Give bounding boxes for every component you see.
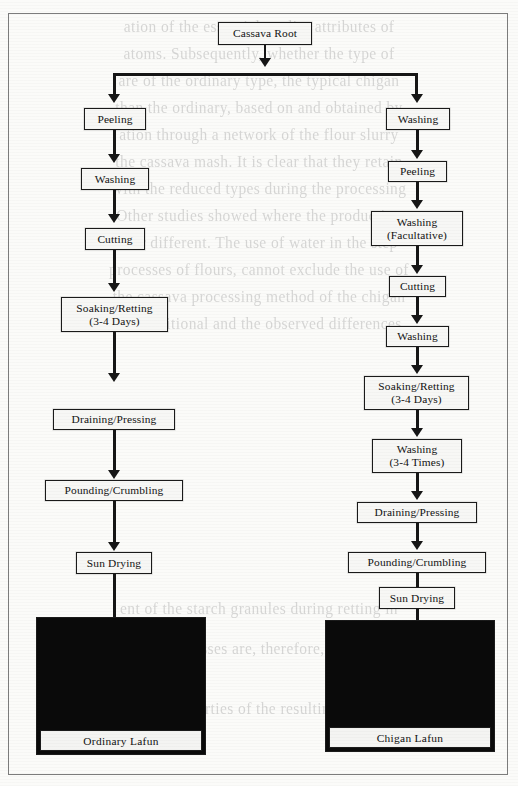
connector-left-3	[113, 250, 116, 286]
connector-left-4	[113, 332, 116, 376]
photo-chigan-lafun: Chigan Lafun	[325, 620, 495, 752]
arrowhead-left-5	[108, 470, 120, 479]
node-right-draining-pressing[interactable]: Draining/Pressing	[357, 502, 477, 523]
arrowhead-left-1	[108, 154, 120, 163]
node-cassava-root[interactable]: Cassava Root	[218, 22, 312, 45]
photo-caption: Ordinary Lafun	[40, 730, 202, 751]
connector-left-6	[113, 501, 116, 545]
node-label: Pounding/Crumbling	[65, 484, 164, 497]
node-sublabel: (Facultative)	[387, 229, 447, 242]
node-label: Washing	[397, 216, 438, 229]
arrowhead-root-stem	[259, 58, 271, 67]
node-label: Sun Drying	[87, 557, 141, 570]
node-label: Cutting	[97, 233, 132, 246]
node-label: Cutting	[400, 280, 435, 293]
node-left-peeling[interactable]: Peeling	[84, 108, 146, 130]
node-label: Pounding/Crumbling	[368, 556, 467, 569]
node-left-soaking-retting[interactable]: Soaking/Retting (3-4 Days)	[61, 297, 168, 332]
node-label: Draining/Pressing	[375, 506, 460, 519]
arrowhead-split-right	[411, 94, 423, 103]
node-label: Washing	[397, 330, 438, 343]
node-right-cutting[interactable]: Cutting	[389, 276, 446, 297]
node-left-pounding-crumbling[interactable]: Pounding/Crumbling	[45, 480, 183, 501]
node-label: Soaking/Retting	[76, 302, 152, 315]
node-sublabel: (3-4 Times)	[389, 456, 444, 469]
arrowhead-split-left	[108, 94, 120, 103]
node-right-washing-facultative[interactable]: Washing (Facultative)	[371, 211, 463, 246]
node-right-washing-1[interactable]: Washing	[386, 108, 450, 130]
arrowhead-right-2	[411, 200, 423, 209]
arrowhead-left-4	[108, 373, 120, 382]
node-label: Draining/Pressing	[72, 413, 157, 426]
node-label: Sun Drying	[390, 592, 444, 605]
arrowhead-left-6	[108, 542, 120, 551]
node-label: Soaking/Retting	[378, 380, 454, 393]
node-sublabel: (3-4 Days)	[89, 315, 140, 328]
connector-left-7	[113, 574, 116, 618]
arrowhead-left-3	[108, 283, 120, 292]
node-right-sun-drying[interactable]: Sun Drying	[379, 587, 455, 609]
arrowhead-left-2	[108, 214, 120, 223]
node-right-washing-3-4-times[interactable]: Washing (3-4 Times)	[372, 439, 462, 473]
connector-split-bar	[113, 73, 418, 76]
arrowhead-right-8	[411, 541, 423, 550]
node-label: Washing	[95, 173, 136, 186]
node-left-sun-drying[interactable]: Sun Drying	[76, 552, 152, 574]
arrowhead-right-7	[411, 491, 423, 500]
connector-left-2	[113, 190, 116, 217]
photo-caption: Chigan Lafun	[329, 727, 491, 748]
arrowhead-right-6	[411, 428, 423, 437]
connector-left-1	[113, 130, 116, 157]
node-label: Washing	[398, 113, 439, 126]
node-right-washing-2[interactable]: Washing	[386, 326, 449, 347]
node-label: Peeling	[400, 165, 435, 178]
node-right-soaking-retting[interactable]: Soaking/Retting (3-4 Days)	[364, 376, 469, 410]
node-label: Washing	[397, 443, 438, 456]
arrowhead-right-1	[411, 150, 423, 159]
node-right-pounding-crumbling[interactable]: Pounding/Crumbling	[348, 552, 486, 573]
node-sublabel: (3-4 Days)	[391, 393, 442, 406]
node-left-washing[interactable]: Washing	[81, 168, 149, 190]
photo-ordinary-lafun: Ordinary Lafun	[36, 617, 206, 755]
arrowhead-right-4	[411, 315, 423, 324]
node-right-peeling[interactable]: Peeling	[388, 161, 447, 182]
node-label: Peeling	[97, 113, 132, 126]
node-left-draining-pressing[interactable]: Draining/Pressing	[53, 409, 175, 430]
arrowhead-right-3	[411, 265, 423, 274]
flowchart-canvas: Cassava Root Peeling Washing Cutting Soa…	[0, 0, 518, 786]
node-left-cutting[interactable]: Cutting	[85, 228, 145, 250]
arrowhead-right-5	[411, 365, 423, 374]
node-label: Cassava Root	[233, 27, 297, 40]
connector-left-5	[113, 430, 116, 473]
